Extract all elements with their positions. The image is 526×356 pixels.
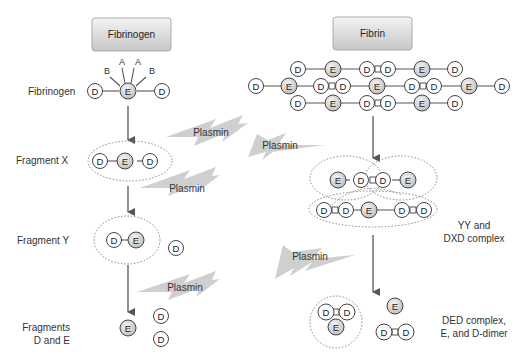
fragment-x-label: Fragment X xyxy=(16,155,69,166)
d-domain-node: D xyxy=(360,96,375,111)
e-domain-node: E xyxy=(328,319,344,335)
svg-text:E: E xyxy=(330,64,336,75)
d-domain-node: D xyxy=(398,324,414,340)
d-domain-node: D xyxy=(314,79,329,94)
svg-text:D: D xyxy=(358,175,365,186)
e-domain-node: E xyxy=(120,83,136,99)
svg-text:D: D xyxy=(147,156,154,167)
svg-text:E: E xyxy=(405,175,411,186)
d-domain-node: D xyxy=(88,84,103,99)
e-domain-node: E xyxy=(325,61,341,77)
d-domain-node: D xyxy=(154,309,169,324)
e-domain-node: E xyxy=(117,153,133,169)
svg-text:E: E xyxy=(374,81,380,92)
svg-text:D: D xyxy=(323,307,330,318)
plasmin-bolt-3: Plasmin xyxy=(140,167,220,196)
d-domain-node: D xyxy=(360,62,375,77)
fragments-d-and-e: E D D xyxy=(120,309,169,347)
svg-text:D: D xyxy=(295,98,302,109)
fragment-y-label: Fragment Y xyxy=(17,235,69,246)
d-domain-node: D xyxy=(317,203,332,218)
fibrinolysis-diagram: Fibrinogen Fibrin Fibrinogen Fragment X … xyxy=(0,0,526,356)
svg-text:Plasmin: Plasmin xyxy=(193,127,229,138)
svg-text:D: D xyxy=(381,327,388,338)
d-domain-node: D xyxy=(381,96,396,111)
svg-text:D: D xyxy=(158,311,165,322)
fibrinopeptides: B A A B xyxy=(104,57,155,76)
svg-text:Plasmin: Plasmin xyxy=(169,183,205,194)
yy-dxd-label-line1: YY and xyxy=(458,220,491,231)
e-domain-node: E xyxy=(461,78,477,94)
e-domain-node: E xyxy=(361,202,377,218)
fragment-x: D E D xyxy=(88,141,172,181)
svg-text:D: D xyxy=(431,81,438,92)
svg-text:D: D xyxy=(343,205,350,216)
d-domain-node: D xyxy=(339,203,354,218)
yy-dxd-label-line2: DXD complex xyxy=(443,233,504,244)
svg-text:D: D xyxy=(295,64,302,75)
fibrinopeptide-a-right: A xyxy=(135,57,141,67)
d-domain-node: D xyxy=(417,203,432,218)
svg-text:Plasmin: Plasmin xyxy=(262,140,298,151)
d-domain-node: D xyxy=(291,96,306,111)
svg-text:D: D xyxy=(403,327,410,338)
svg-text:E: E xyxy=(466,81,472,92)
ded-label-line1: DED complex, xyxy=(442,315,506,326)
released-d-fragment: D xyxy=(169,241,184,256)
svg-text:D: D xyxy=(364,98,371,109)
fragment-y: D E xyxy=(94,216,160,264)
svg-text:D: D xyxy=(253,81,260,92)
svg-text:D: D xyxy=(92,86,99,97)
d-domain-node: D xyxy=(339,304,355,320)
d-domain-node: D xyxy=(93,154,108,169)
svg-text:D: D xyxy=(97,156,104,167)
fibrin-header-label: Fibrin xyxy=(360,28,385,39)
crosslink xyxy=(329,83,335,89)
svg-text:D: D xyxy=(158,334,165,345)
svg-text:D: D xyxy=(409,81,416,92)
plasmin-bolt-2: Plasmin xyxy=(248,133,325,160)
svg-text:E: E xyxy=(366,205,372,216)
e-domain-node: E xyxy=(128,232,144,248)
svg-text:D: D xyxy=(399,205,406,216)
fibrinogen-header-box: Fibrinogen xyxy=(92,18,171,51)
svg-text:E: E xyxy=(419,64,425,75)
svg-text:E: E xyxy=(335,175,341,186)
svg-text:D: D xyxy=(452,98,459,109)
svg-text:D: D xyxy=(421,205,428,216)
d-domain-node: D xyxy=(448,96,463,111)
crosslink xyxy=(392,329,398,335)
d-domain-node: D xyxy=(427,79,442,94)
yy-dxd-complex: E D D E D D E D D xyxy=(309,156,437,227)
svg-text:D: D xyxy=(340,81,347,92)
d-domain-node: D xyxy=(291,62,306,77)
svg-text:D: D xyxy=(364,64,371,75)
svg-text:D: D xyxy=(344,307,351,318)
fibrin-header-box: Fibrin xyxy=(333,17,412,50)
fibrinogen-nodes: D E D xyxy=(88,83,170,99)
d-domain-node: D xyxy=(381,62,396,77)
d-domain-node: D xyxy=(395,203,410,218)
ded-complex: D D E xyxy=(310,296,362,348)
d-domain-node: D xyxy=(376,173,391,188)
e-domain-node: E xyxy=(120,320,136,336)
svg-text:D: D xyxy=(159,86,166,97)
svg-text:D: D xyxy=(452,64,459,75)
svg-text:E: E xyxy=(392,301,398,312)
svg-text:Plasmin: Plasmin xyxy=(167,282,203,293)
e-domain-node: E xyxy=(330,172,346,188)
svg-text:E: E xyxy=(286,81,292,92)
fibrinogen-header-label: Fibrinogen xyxy=(108,29,155,40)
svg-text:D: D xyxy=(321,205,328,216)
fibrin-row-2: D E D D E D D E D xyxy=(249,78,510,94)
fibrinopeptide-b-right: B xyxy=(149,66,155,76)
svg-text:Plasmin: Plasmin xyxy=(292,251,328,262)
svg-text:E: E xyxy=(125,323,131,334)
svg-text:E: E xyxy=(125,86,131,97)
svg-text:E: E xyxy=(133,235,139,246)
fibrinopeptide-a-left: A xyxy=(119,57,125,67)
svg-text:D: D xyxy=(380,175,387,186)
svg-text:D: D xyxy=(385,64,392,75)
svg-text:D: D xyxy=(385,98,392,109)
svg-text:D: D xyxy=(111,235,118,246)
